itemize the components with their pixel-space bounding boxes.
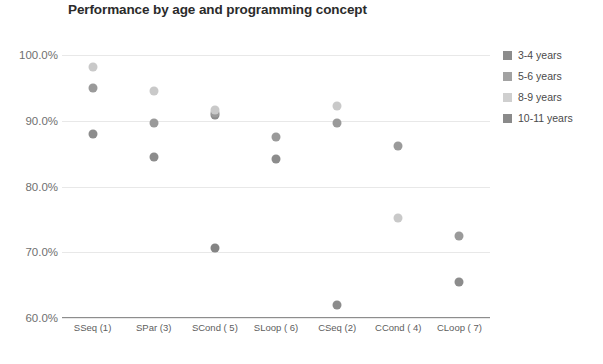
data-point xyxy=(210,106,219,115)
data-point xyxy=(333,101,342,110)
legend-swatch-icon xyxy=(503,51,512,60)
data-point xyxy=(149,87,158,96)
chart-legend: 3-4 years5-6 years8-9 years10-11 years xyxy=(503,46,601,130)
gridline xyxy=(62,318,490,319)
gridline xyxy=(62,187,490,188)
gridline xyxy=(62,252,490,253)
legend-item-label: 10-11 years xyxy=(518,112,573,124)
legend-item[interactable]: 3-4 years xyxy=(503,46,601,64)
legend-swatch-icon xyxy=(503,93,512,102)
x-axis-tick-label: SCond ( 5) xyxy=(184,322,246,334)
chart-title: Performance by age and programming conce… xyxy=(68,2,367,17)
x-axis-tick-label: SLoop ( 6) xyxy=(245,322,307,334)
data-point xyxy=(88,129,97,138)
y-axis-tick-label: 90.0% xyxy=(2,115,58,127)
data-point xyxy=(455,231,464,240)
legend-item-label: 3-4 years xyxy=(518,49,562,61)
x-axis: SSeq (1)SPar (3)SCond ( 5)SLoop ( 6)CSeq… xyxy=(62,322,490,362)
y-axis-tick-label: 70.0% xyxy=(2,246,58,258)
plot-area xyxy=(62,55,490,318)
data-point xyxy=(333,300,342,309)
x-axis-tick-label: SSeq (1) xyxy=(62,322,124,334)
legend-swatch-icon xyxy=(503,114,512,123)
y-axis-tick-label: 100.0% xyxy=(2,49,58,61)
data-point xyxy=(149,119,158,128)
x-axis-tick-label: SPar (3) xyxy=(123,322,185,334)
x-axis-tick-label: CLoop ( 7) xyxy=(428,322,490,334)
data-point xyxy=(394,214,403,223)
data-point xyxy=(455,277,464,286)
data-point xyxy=(394,141,403,150)
y-axis: 60.0%70.0%80.0%90.0%100.0% xyxy=(0,55,58,318)
data-point xyxy=(149,152,158,161)
y-axis-tick-label: 60.0% xyxy=(2,312,58,324)
gridline xyxy=(62,55,490,56)
data-point xyxy=(88,62,97,71)
gridline xyxy=(62,121,490,122)
x-axis-tick-label: CCond ( 4) xyxy=(367,322,429,334)
data-point xyxy=(272,132,281,141)
chart-container: Performance by age and programming conce… xyxy=(0,0,603,364)
legend-item[interactable]: 5-6 years xyxy=(503,67,601,85)
data-point xyxy=(210,243,219,252)
legend-item-label: 8-9 years xyxy=(518,91,562,103)
legend-item-label: 5-6 years xyxy=(518,70,562,82)
data-point xyxy=(333,118,342,127)
legend-item[interactable]: 8-9 years xyxy=(503,88,601,106)
legend-item[interactable]: 10-11 years xyxy=(503,109,601,127)
y-axis-tick-label: 80.0% xyxy=(2,181,58,193)
legend-swatch-icon xyxy=(503,72,512,81)
x-axis-tick-label: CSeq (2) xyxy=(306,322,368,334)
data-point xyxy=(272,154,281,163)
data-point xyxy=(88,83,97,92)
